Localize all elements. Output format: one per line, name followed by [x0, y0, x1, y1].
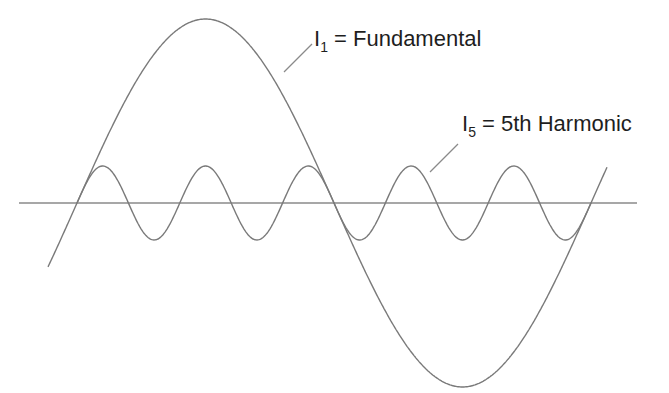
harmonic-leader-line — [430, 144, 458, 172]
fundamental-subscript: 1 — [320, 39, 328, 55]
fundamental-leader-line — [284, 44, 312, 72]
harmonic-text: = 5th Harmonic — [476, 111, 632, 136]
harmonic-subscript: 5 — [468, 124, 476, 140]
fundamental-text: = Fundamental — [328, 26, 481, 51]
fundamental-label: I1 = Fundamental — [314, 28, 481, 50]
waveform-plot — [0, 0, 669, 393]
harmonic-diagram: I1 = Fundamental I5 = 5th Harmonic — [0, 0, 669, 393]
harmonic-label: I5 = 5th Harmonic — [462, 113, 632, 135]
